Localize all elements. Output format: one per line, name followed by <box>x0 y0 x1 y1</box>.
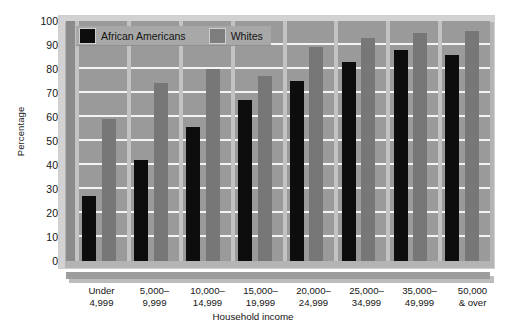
bar-african-americans <box>134 160 148 261</box>
bar-group <box>386 21 438 261</box>
bars-layer <box>75 21 490 261</box>
group-separator <box>438 21 442 261</box>
bar-whites <box>361 38 375 261</box>
x-tick-label: 10,000–14,999 <box>181 285 234 310</box>
bar-whites <box>154 83 168 261</box>
x-tick-label: 20,000–24,999 <box>287 285 340 310</box>
y-tick-label: 0 <box>16 256 58 266</box>
x-tick-label-line: 24,999 <box>287 297 340 309</box>
x-axis-title: Household income <box>0 311 506 322</box>
y-tick-label: 100 <box>16 16 58 26</box>
plot-area <box>66 21 490 261</box>
bar-african-americans <box>186 127 200 261</box>
x-tick-label-line: 9,999 <box>128 297 181 309</box>
bar-group <box>127 21 179 261</box>
bar-whites <box>206 69 220 261</box>
bar-african-americans <box>342 62 356 261</box>
group-separator <box>75 21 79 261</box>
bar-african-americans <box>445 55 459 261</box>
bar-group <box>334 21 386 261</box>
bar-whites <box>465 31 479 261</box>
y-tick-label: 50 <box>16 136 58 146</box>
y-tick-label: 30 <box>16 184 58 194</box>
y-tick-label: 40 <box>16 160 58 170</box>
x-tick-label-line: 34,999 <box>340 297 393 309</box>
bar-group <box>231 21 283 261</box>
y-tick-label: 60 <box>16 112 58 122</box>
bar-group <box>283 21 335 261</box>
x-tick-label-line: 50,000 <box>446 285 499 297</box>
group-separator <box>283 21 287 261</box>
bar-african-americans <box>394 50 408 261</box>
x-tick-label-line: 5,000– <box>128 285 181 297</box>
x-tick-label-line: & over <box>446 297 499 309</box>
bar-african-americans <box>82 196 96 261</box>
x-tick-label-line: 10,000– <box>181 285 234 297</box>
legend-swatch-black <box>80 29 95 43</box>
y-tick-label: 70 <box>16 88 58 98</box>
group-separator <box>179 21 183 261</box>
x-tick-label: 15,000–19,999 <box>234 285 287 310</box>
x-tick-label-line: Under <box>75 285 128 297</box>
x-tick-label-line: 19,999 <box>234 297 287 309</box>
bar-group <box>438 21 490 261</box>
x-axis-band <box>66 272 490 279</box>
y-tick-label: 20 <box>16 208 58 218</box>
x-tick-label: 25,000–34,999 <box>340 285 393 310</box>
legend-item: Whites <box>210 26 265 45</box>
x-tick-label-line: 14,999 <box>181 297 234 309</box>
x-axis-tick-labels: Under4,9995,000–9,99910,000–14,99915,000… <box>75 285 499 310</box>
legend-label: African Americans <box>101 30 186 42</box>
y-tick-label: 10 <box>16 232 58 242</box>
group-separator <box>334 21 338 261</box>
x-tick-label: 35,000–49,999 <box>393 285 446 310</box>
chart-legend: African AmericansWhites <box>76 26 271 45</box>
y-axis-tick-labels: 1009080706050403020100 <box>16 18 58 258</box>
plot-left-wall <box>66 21 75 261</box>
x-tick-label: 5,000–9,999 <box>128 285 181 310</box>
bar-african-americans <box>290 81 304 261</box>
x-tick-label-line: 25,000– <box>340 285 393 297</box>
bar-whites <box>258 76 272 261</box>
x-tick-label-line: 15,000– <box>234 285 287 297</box>
legend-swatch-gray <box>210 29 225 43</box>
x-tick-label: Under4,999 <box>75 285 128 310</box>
bar-whites <box>413 33 427 261</box>
bar-group <box>179 21 231 261</box>
x-tick-label-line: 20,000– <box>287 285 340 297</box>
x-tick-label: 50,000& over <box>446 285 499 310</box>
bar-whites <box>309 47 323 261</box>
group-separator <box>127 21 131 261</box>
x-tick-label-line: 35,000– <box>393 285 446 297</box>
bar-african-americans <box>238 100 252 261</box>
x-tick-label-line: 49,999 <box>393 297 446 309</box>
bar-group <box>75 21 127 261</box>
group-separator <box>231 21 235 261</box>
bar-whites <box>102 119 116 261</box>
legend-item: African Americans <box>80 26 210 45</box>
x-tick-label-line: 4,999 <box>75 297 128 309</box>
bar-chart-figure: Percentage 1009080706050403020100 Under4… <box>0 0 506 333</box>
y-tick-label: 90 <box>16 40 58 50</box>
legend-label: Whites <box>231 30 263 42</box>
y-tick-label: 80 <box>16 64 58 74</box>
group-separator <box>386 21 390 261</box>
